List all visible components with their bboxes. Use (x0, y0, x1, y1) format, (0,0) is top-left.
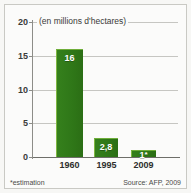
y-tick-label-5: 5 (6, 118, 28, 129)
x-tick-label-2009: 2009 (126, 160, 161, 170)
y-tick-label-20: 20 (6, 17, 28, 28)
bar-value-1960: 16 (56, 53, 83, 63)
y-tick-mark-15 (29, 56, 33, 57)
y-tick-mark-0 (29, 157, 33, 158)
bar-1995[interactable]: 2,8 (94, 138, 118, 157)
y-tick-mark-10 (29, 90, 33, 91)
y-tick-mark-20 (29, 22, 33, 23)
footnote: *estimation (10, 179, 45, 186)
source-credit: Source: AFP, 2009 (123, 179, 181, 186)
bar-group-2009: 1* (131, 22, 156, 157)
x-axis (30, 157, 180, 158)
x-tick-label-1995: 1995 (89, 160, 124, 170)
y-tick-label-15: 15 (6, 51, 28, 62)
bar-2009[interactable]: 1* (131, 150, 156, 157)
bar-1960[interactable]: 16 (56, 49, 83, 157)
y-tick-label-0: 0 (6, 152, 28, 163)
bar-value-2009: 1* (131, 150, 156, 160)
x-tick-label-1960: 1960 (52, 160, 87, 170)
chart-figure: 20 15 10 5 0 (en millions d'hectares) 16… (0, 0, 191, 193)
bar-group-1995: 2,8 (94, 22, 118, 157)
y-tick-mark-5 (29, 123, 33, 124)
bar-group-1960: 16 (56, 22, 83, 157)
y-tick-label-10: 10 (6, 85, 28, 96)
bar-value-1995: 2,8 (94, 142, 118, 152)
